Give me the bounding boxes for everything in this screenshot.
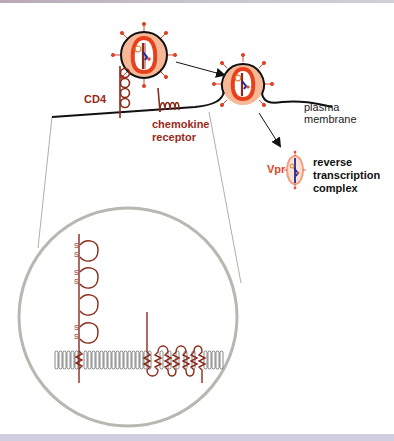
plasma-membrane-label-2: membrane (304, 113, 357, 125)
reverse-transcription-complex (284, 151, 306, 189)
svg-text:S: S (74, 242, 79, 249)
arrow-binding (176, 62, 224, 75)
svg-text:S: S (74, 324, 79, 331)
rtc-label-1: reverse (313, 156, 352, 168)
free-virion (111, 22, 176, 87)
bottom-border (0, 434, 394, 441)
svg-text:S: S (74, 278, 79, 285)
rtc-label-2: transcription (313, 169, 381, 181)
cd4-label: CD4 (84, 93, 107, 105)
chemokine-receptor-label-1: chemokine (152, 118, 209, 130)
svg-text:S: S (74, 333, 79, 340)
vpr-label: Vpr (267, 163, 286, 175)
plasma-membrane-label-1: plasma (304, 101, 340, 113)
chemokine-receptor-label-2: receptor (152, 131, 197, 143)
arrow-entry (259, 113, 280, 146)
svg-text:S: S (74, 269, 79, 276)
zoom-inset-circle (19, 208, 237, 426)
hiv-entry-diagram: CD4 chemokine receptor plasma membrane V… (0, 0, 394, 441)
rtc-label-3: complex (313, 182, 359, 194)
svg-text:S: S (74, 251, 79, 258)
zoom-guide-left (38, 117, 52, 248)
